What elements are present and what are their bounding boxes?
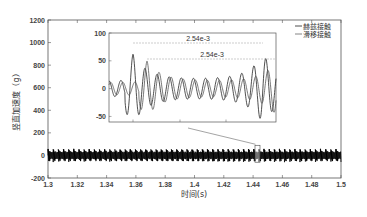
x-tick-label: 1.3 [43,181,53,188]
series-line [48,149,341,162]
y-axis-label: 竖直加速度（g） [11,69,21,130]
x-axis-label: 时间(s) [181,189,207,199]
x-tick-label: 1.32 [70,181,84,188]
inset-axes: 100500-502.54e-32.54e-3 [94,30,276,123]
x-tick-label: 1.34 [100,181,114,188]
period-annotation-label-2: 2.54e-3 [200,51,224,58]
y-tick-label: 800 [33,62,45,69]
inset-y-tick-label: 50 [98,57,106,64]
legend: 赫兹接触滑移接触 [295,22,331,39]
x-tick-label: 1.44 [246,181,260,188]
y-tick-label: 200 [33,129,45,136]
inset-y-tick-label: -50 [96,113,106,120]
y-tick-label: 1200 [29,17,45,24]
x-tick-label: 1.4 [190,181,200,188]
zoom-connector-line [188,128,255,144]
legend-entry-label: 赫兹接触 [303,22,331,31]
x-tick-label: 1.46 [276,181,290,188]
y-tick-label: 1000 [29,39,45,46]
inset-y-tick-label: 100 [94,30,106,37]
chart-figure: 1.31.321.341.361.381.41.421.441.461.481.… [0,0,367,217]
x-tick-label: 1.38 [158,181,172,188]
y-tick-label: 400 [33,107,45,114]
x-tick-label: 1.42 [217,181,231,188]
legend-entry-label: 滑移接触 [303,30,331,39]
y-tick-label: 0 [41,152,45,159]
inset-frame [109,33,276,122]
x-tick-label: 1.36 [129,181,143,188]
period-annotation-label-1: 2.54e-3 [186,35,210,42]
y-tick-label: 600 [33,84,45,91]
zoom-region-box [255,145,260,162]
x-tick-label: 1.5 [336,181,346,188]
y-tick-label: -200 [31,175,45,182]
main-signal-band [48,149,341,162]
inset-y-tick-label: 0 [102,85,106,92]
x-tick-label: 1.48 [305,181,319,188]
